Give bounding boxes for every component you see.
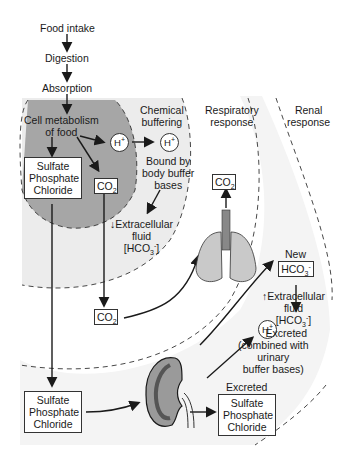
- chemical-buffering-heading: Chemicalbuffering: [140, 104, 184, 128]
- digestion-label: Digestion: [45, 52, 89, 64]
- new-label: New: [285, 248, 306, 260]
- lungs-icon: [196, 210, 256, 282]
- anion-box-cell: SulfatePhosphateChloride: [24, 157, 82, 199]
- excreted-h-label: Excreted(combined withurinarybuffer base…: [238, 327, 309, 375]
- h-plus-circle: H+: [110, 133, 129, 152]
- cell-metabolism-label: Cell metabolism of food: [24, 114, 99, 138]
- anion-box-excreted: SulfatePhosphateChloride: [218, 394, 276, 436]
- respiratory-response-heading: Respiratoryresponse: [205, 104, 259, 128]
- food-intake-label: Food intake: [40, 22, 95, 34]
- co2-box-cell: CO2: [94, 178, 118, 194]
- renal-response-heading: Renalresponse: [287, 104, 330, 128]
- absorption-label: Absorption: [42, 82, 92, 94]
- bound-by-buffer-label: Bound bybody bufferbases: [142, 155, 194, 191]
- extracellular-fluid-decrease-label: ↓Extracellularfluid [HCO3-]: [110, 218, 173, 254]
- extracellular-fluid-increase-label: ↑Extracellularfluid [HCO3-]: [262, 290, 325, 326]
- hco3-box-new: HCO3-: [278, 261, 314, 277]
- h-plus-circle-buffered: H+: [160, 133, 179, 152]
- anion-box-blood: SulfatePhosphateChloride: [24, 391, 82, 433]
- excreted-label: Excreted: [226, 381, 267, 393]
- co2-box-exhaled: CO2: [212, 174, 236, 190]
- co2-box-blood: CO2: [94, 309, 118, 325]
